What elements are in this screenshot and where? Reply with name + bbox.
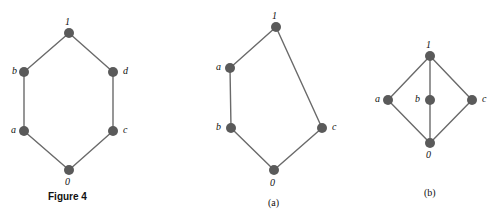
diagram-sublabel: (a): [268, 198, 279, 208]
lattice-node-label: d: [123, 66, 128, 76]
lattice-diagram-group: 1bdac01abc0(a)1abc0(b): [0, 0, 496, 217]
lattice-edge: [230, 27, 276, 68]
lattice-edges-and-nodes: [0, 0, 496, 217]
figure-caption: Figure 4: [48, 192, 87, 202]
lattice-node: [64, 165, 74, 175]
lattice-node: [226, 123, 236, 133]
lattice-node-label: b: [12, 66, 17, 76]
lattice-node-label: 1: [426, 40, 431, 50]
lattice-node-label: 0: [65, 177, 70, 187]
lattice-edge: [388, 100, 430, 143]
lattice-node-label: c: [482, 94, 486, 104]
lattice-node-label: b: [415, 94, 420, 104]
lattice-node-label: 0: [270, 178, 275, 188]
lattice-node-label: c: [123, 125, 127, 135]
lattice-node-label: a: [375, 94, 380, 104]
lattice-node-label: a: [216, 62, 221, 72]
lattice-edge: [69, 131, 113, 170]
lattice-node: [317, 123, 327, 133]
lattice-node: [64, 28, 74, 38]
lattice-edge: [430, 100, 472, 143]
lattice-node-label: 1: [65, 17, 70, 27]
lattice-node: [383, 95, 393, 105]
lattice-node: [425, 95, 435, 105]
lattice-node-label: a: [11, 125, 16, 135]
hexagonal-lattice: [19, 28, 118, 175]
lattice-node: [269, 165, 279, 175]
lattice-edge: [274, 128, 322, 170]
lattice-node-label: b: [216, 122, 221, 132]
lattice-edge: [231, 128, 274, 170]
lattice-node: [19, 126, 29, 136]
lattice-node: [467, 95, 477, 105]
lattice-node-label: 1: [272, 11, 277, 21]
lattice-edge: [24, 131, 69, 170]
figure-page: 1bdac01abc0(a)1abc0(b) Figure 4: [0, 0, 496, 217]
lattice-node-label: c: [332, 122, 336, 132]
lattice-edge: [24, 33, 69, 72]
lattice-node: [425, 51, 435, 61]
lattice-node-label: 0: [426, 150, 431, 160]
diamond-lattice-b: [383, 51, 477, 148]
lattice-node: [271, 22, 281, 32]
lattice-node: [225, 63, 235, 73]
lattice-node: [19, 67, 29, 77]
lattice-edge: [388, 56, 430, 100]
lattice-node: [425, 138, 435, 148]
lattice-node: [108, 126, 118, 136]
lattice-edge: [69, 33, 113, 72]
diagram-sublabel: (b): [424, 188, 436, 198]
lattice-edge: [430, 56, 472, 100]
lattice-edge: [276, 27, 322, 128]
pentagon-lattice-a: [225, 22, 327, 175]
lattice-node: [108, 67, 118, 77]
lattice-edge: [230, 68, 231, 128]
